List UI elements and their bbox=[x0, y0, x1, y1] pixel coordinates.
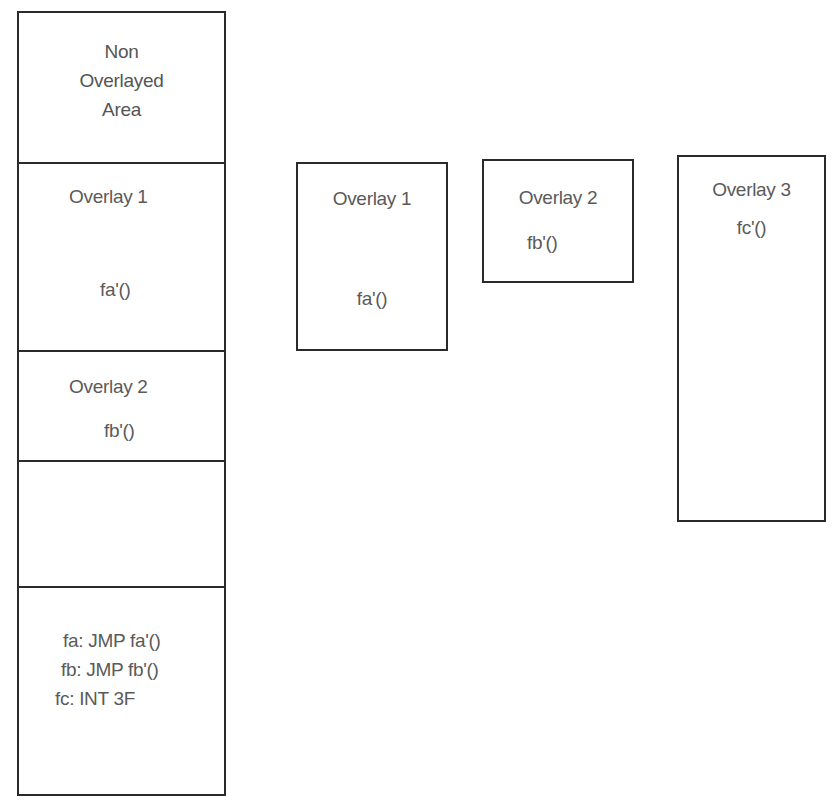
overlay2-func: fb'() bbox=[527, 232, 558, 254]
overlay1-slot: Overlay 1 fa'() bbox=[19, 162, 224, 352]
overlay1-func: fa'() bbox=[298, 288, 446, 310]
overlay3-box: Overlay 3 fc'() bbox=[677, 155, 826, 522]
stub-line-fa: fa: JMP fa'() bbox=[63, 630, 161, 652]
overlay1-box: Overlay 1 fa'() bbox=[296, 162, 448, 351]
overlay3-func: fc'() bbox=[679, 217, 824, 239]
overlay2-slot-func: fb'() bbox=[104, 420, 135, 442]
memory-column: Non Overlayed Area Overlay 1 fa'() Overl… bbox=[17, 11, 226, 796]
overlay2-box: Overlay 2 fb'() bbox=[482, 159, 634, 283]
stub-area: fa: JMP fa'() fb: JMP fb'() fc: INT 3F bbox=[19, 586, 224, 794]
overlay2-title: Overlay 2 bbox=[484, 187, 632, 209]
overlay2-slot: Overlay 2 fb'() bbox=[19, 350, 224, 462]
non-overlayed-area: Non Overlayed Area bbox=[19, 13, 224, 164]
overlay2-slot-title: Overlay 2 bbox=[69, 376, 148, 398]
label-line: Overlayed bbox=[19, 66, 224, 95]
overlay1-title: Overlay 1 bbox=[298, 188, 446, 210]
stub-line-fc: fc: INT 3F bbox=[55, 688, 135, 710]
overlay1-slot-title: Overlay 1 bbox=[69, 186, 148, 208]
overlay1-slot-func: fa'() bbox=[100, 279, 131, 301]
non-overlayed-label: Non Overlayed Area bbox=[19, 37, 224, 124]
stub-line-fb: fb: JMP fb'() bbox=[61, 659, 159, 681]
label-line: Area bbox=[19, 95, 224, 124]
empty-slot bbox=[19, 460, 224, 588]
label-line: Non bbox=[19, 37, 224, 66]
overlay3-title: Overlay 3 bbox=[679, 179, 824, 201]
